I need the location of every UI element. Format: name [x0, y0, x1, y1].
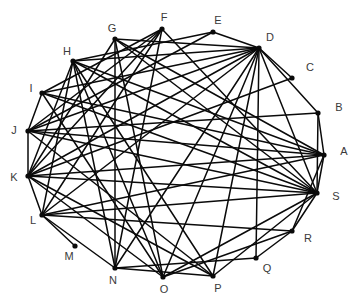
graph-node-c[interactable] — [289, 75, 294, 80]
graph-node-label-g: G — [108, 22, 117, 34]
graph-node-label-a: A — [340, 145, 348, 157]
graph-node-m[interactable] — [72, 243, 77, 248]
graph-figure: ABCDEFGHIJKLMNOPQRS — [0, 0, 354, 304]
edge-layer — [28, 29, 324, 277]
graph-node-o[interactable] — [160, 274, 165, 279]
graph-node-d[interactable] — [256, 45, 261, 50]
graph-node-label-s: S — [332, 190, 339, 202]
graph-node-j[interactable] — [25, 128, 30, 133]
graph-edge — [318, 113, 324, 155]
node-link-graph: ABCDEFGHIJKLMNOPQRS — [0, 0, 354, 304]
graph-edge — [28, 32, 213, 131]
graph-node-label-j: J — [11, 124, 17, 136]
graph-edge — [28, 176, 213, 276]
graph-node-label-e: E — [214, 14, 221, 26]
graph-edge — [73, 61, 317, 193]
graph-node-label-c: C — [306, 61, 314, 73]
graph-edge — [28, 61, 73, 176]
graph-edge — [317, 113, 318, 193]
graph-node-a[interactable] — [321, 152, 326, 157]
graph-edge — [28, 176, 317, 193]
graph-edge — [42, 193, 317, 215]
graph-node-p[interactable] — [210, 273, 215, 278]
graph-node-label-m: M — [64, 250, 73, 262]
graph-node-label-q: Q — [263, 262, 272, 274]
graph-edge — [256, 231, 292, 258]
graph-edge — [163, 231, 292, 277]
graph-edge — [162, 29, 317, 193]
graph-node-g[interactable] — [112, 36, 117, 41]
graph-node-label-b: B — [335, 101, 342, 113]
graph-edge — [42, 215, 115, 268]
graph-node-k[interactable] — [25, 173, 30, 178]
graph-edge — [259, 48, 292, 78]
graph-edge — [42, 48, 259, 215]
graph-node-r[interactable] — [289, 228, 294, 233]
graph-edge — [259, 48, 318, 113]
graph-node-q[interactable] — [253, 255, 258, 260]
graph-edge — [42, 215, 292, 231]
graph-edge — [292, 193, 317, 231]
graph-node-label-n: N — [109, 274, 117, 286]
graph-node-i[interactable] — [39, 90, 44, 95]
graph-node-f[interactable] — [159, 26, 164, 31]
graph-node-label-o: O — [160, 283, 169, 295]
graph-node-label-i: I — [29, 82, 32, 94]
graph-node-n[interactable] — [112, 265, 117, 270]
graph-node-label-l: L — [30, 214, 36, 226]
graph-node-e[interactable] — [210, 29, 215, 34]
graph-node-l[interactable] — [39, 212, 44, 217]
graph-node-label-h: H — [63, 45, 71, 57]
graph-node-label-p: P — [214, 282, 221, 294]
graph-node-label-r: R — [304, 232, 312, 244]
graph-node-label-k: K — [10, 171, 18, 183]
graph-node-label-d: D — [266, 31, 274, 43]
graph-edge — [42, 215, 75, 246]
graph-edge — [73, 61, 213, 276]
graph-node-label-f: F — [161, 11, 168, 23]
graph-node-h[interactable] — [70, 58, 75, 63]
graph-node-s[interactable] — [314, 190, 319, 195]
graph-node-b[interactable] — [315, 110, 320, 115]
